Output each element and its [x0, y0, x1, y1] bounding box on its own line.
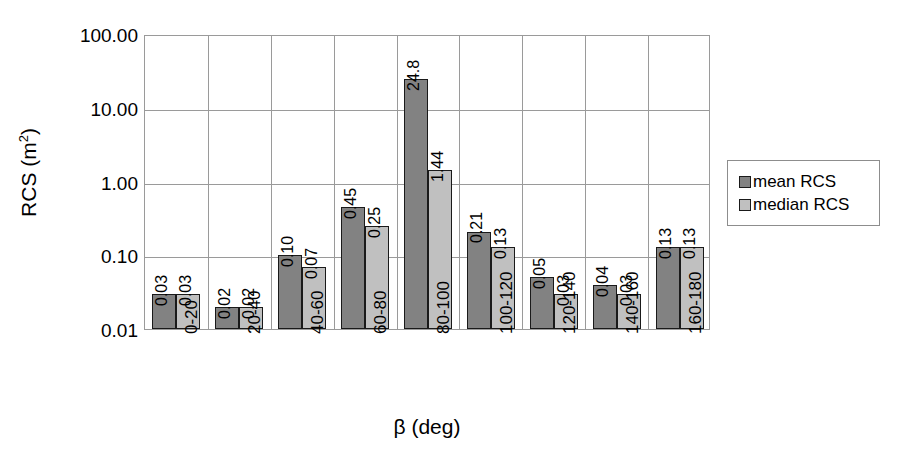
y-axis-tick-label: 10.00 [42, 100, 138, 119]
bar-value-label: 0.45 [343, 188, 359, 219]
legend-item[interactable]: mean RCS [728, 170, 879, 193]
y-axis-title-text: RCS (m [17, 142, 40, 217]
legend-item[interactable]: median RCS [728, 193, 879, 216]
bar-mean[interactable] [404, 79, 428, 329]
x-axis-tick-labels: 0-2020-4040-6060-8080-100100-120120-1401… [144, 334, 710, 414]
rcs-bar-chart: RCS (m2) 100.0010.001.000.100.01 0.030.0… [0, 0, 912, 458]
bar-value-label: 0.10 [280, 236, 296, 267]
bar-value-label: 0.03 [154, 275, 170, 306]
y-axis-tick-label: 0.10 [42, 247, 138, 266]
x-axis-tick-label: 80-100 [435, 281, 452, 334]
bar-value-label: 0.04 [595, 265, 611, 296]
y-axis-tick-labels: 100.0010.001.000.100.01 [38, 0, 138, 458]
bar-value-label: 0.25 [367, 207, 383, 238]
x-axis-tick-label: 100-120 [498, 272, 515, 334]
x-axis-tick-label: 140-160 [624, 272, 641, 334]
bar-value-label: 0.13 [682, 228, 698, 259]
y-axis-tick-label: 0.01 [42, 321, 138, 340]
legend-label: mean RCS [753, 173, 836, 190]
y-axis-title-tail: ) [17, 128, 40, 135]
y-axis-tick-label: 1.00 [42, 174, 138, 193]
legend-swatch-mean [739, 176, 751, 188]
legend-swatch-median [739, 199, 751, 211]
x-axis-title: β (deg) [144, 415, 710, 439]
x-axis-tick-label: 0-20 [183, 300, 200, 334]
bar-value-label: 1.44 [430, 151, 446, 182]
bar-group: 0.100.07 [271, 36, 334, 329]
bar-value-label: 0.07 [304, 248, 320, 279]
bar-value-label: 0.05 [532, 258, 548, 289]
x-axis-tick-label: 60-80 [372, 291, 389, 334]
bar-group: 0.020.02 [208, 36, 271, 329]
bar-value-label: 24.8 [406, 60, 422, 91]
bar-mean[interactable] [656, 247, 680, 329]
x-axis-tick-label: 40-60 [309, 291, 326, 334]
bar-value-label: 0.13 [658, 228, 674, 259]
x-axis-tick-label: 120-140 [561, 272, 578, 334]
bar-group: 0.030.03 [145, 36, 208, 329]
y-axis-title: RCS (m2) [16, 83, 41, 263]
bar-mean[interactable] [341, 207, 365, 329]
bar-group: 0.450.25 [334, 36, 397, 329]
y-axis-title-superscript: 2 [16, 135, 31, 142]
x-axis-tick-label: 20-40 [246, 291, 263, 334]
y-axis-tick-label: 100.00 [42, 26, 138, 45]
bar-value-label: 0.21 [469, 212, 485, 243]
x-axis-tick-label: 160-180 [687, 272, 704, 334]
legend-label: median RCS [753, 196, 849, 213]
bar-value-label: 0.02 [217, 288, 233, 319]
chart-legend: mean RCSmedian RCS [727, 160, 880, 226]
bar-value-label: 0.13 [493, 228, 509, 259]
bar-mean[interactable] [467, 232, 491, 330]
